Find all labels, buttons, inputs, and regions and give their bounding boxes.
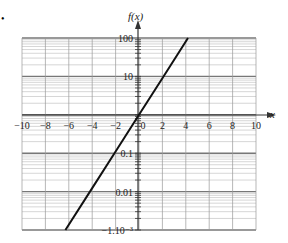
x-tick-label: 10 xyxy=(251,120,261,131)
x-axis-title: x xyxy=(269,108,275,120)
y-tick-label: 0.01 xyxy=(116,187,134,198)
series-line xyxy=(65,38,188,230)
y-tick-label: 100 xyxy=(118,33,133,44)
x-tick-label: 6 xyxy=(207,120,212,131)
log-scale-line-chart: −10−8−6−4−20246810100100.10.01−1.10⁻³ • … xyxy=(0,0,288,243)
x-tick-label: −2 xyxy=(110,120,121,131)
y-tick-label: 10 xyxy=(123,71,133,82)
x-tick-label: 2 xyxy=(160,120,165,131)
x-tick-label: −4 xyxy=(87,120,98,131)
x-tick-label: 8 xyxy=(230,120,235,131)
x-tick-label: 4 xyxy=(183,120,188,131)
x-tick-label: 0 xyxy=(141,120,146,131)
y-tick-label: 0.1 xyxy=(121,148,134,159)
axes xyxy=(22,20,276,230)
x-tick-label: −6 xyxy=(63,120,74,131)
y-axis-title: f(x) xyxy=(128,10,144,23)
data-series xyxy=(65,38,188,230)
plot-grid xyxy=(22,38,256,230)
y-tick-label: −1.10⁻³ xyxy=(102,225,133,236)
bullet-marker: • xyxy=(1,13,5,24)
x-tick-label: −8 xyxy=(40,120,51,131)
x-tick-label: −10 xyxy=(14,120,30,131)
